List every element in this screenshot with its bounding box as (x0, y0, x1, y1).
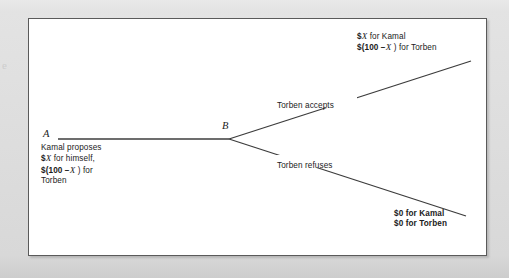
node-label-a: A (43, 128, 49, 139)
payoff-accepts-line-2-prefix: $(100 − (357, 43, 386, 52)
proposal-annotation: Kamal proposes $X for himself, $(100 −X … (41, 143, 102, 186)
node-label-b: B (222, 120, 228, 131)
proposal-line-2: $X for himself, (41, 153, 102, 164)
proposal-line-3-prefix: $(100 − (41, 166, 70, 175)
payoff-refuses: $0 for Kamal $0 for Torben (394, 209, 447, 230)
payoff-accepts-line-1: $X for Kamal (357, 31, 437, 42)
branch-label-accepts: Torben accepts (277, 101, 334, 111)
branch-label-refuses: Torben refuses (277, 161, 333, 171)
payoff-accepts-line-1-suffix: for Kamal (367, 32, 405, 41)
proposal-line-3-suffix: ) for (75, 166, 92, 175)
payoff-accepts-line-2: $(100 −X ) for Torben (357, 42, 437, 53)
payoff-refuses-line-1: $0 for Kamal (394, 209, 447, 219)
cropped-caption-mark: e (2, 58, 16, 72)
proposal-line-2-suffix: for himself, (51, 154, 95, 163)
payoff-refuses-line-2: $0 for Torben (394, 219, 447, 229)
payoff-accepts-line-2-suffix: ) for Torben (391, 43, 436, 52)
proposal-line-1: Kamal proposes (41, 143, 102, 153)
payoff-accepts: $X for Kamal $(100 −X ) for Torben (357, 31, 437, 54)
proposal-line-3: $(100 −X ) for (41, 165, 102, 176)
edge-b-refuses (229, 139, 466, 216)
figure-frame: A B Kamal proposes $X for himself, $(100… (28, 18, 487, 256)
proposal-line-4: Torben (41, 176, 102, 186)
figure-page: e A B Kamal proposes $X for himself, $(1… (0, 0, 509, 278)
